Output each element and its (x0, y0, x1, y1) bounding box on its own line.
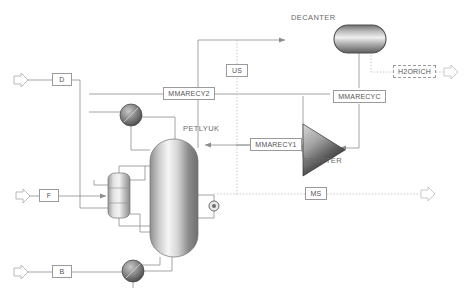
outlet-arrow-h2orich (444, 65, 458, 79)
block-label-splitter: SPLITTER (303, 156, 342, 165)
block-label-decanter: DECANTER (291, 13, 335, 22)
block-label-petlyuk: PETLYUK (183, 124, 219, 133)
stream-label-mmarecy1[interactable]: MMARECY1 (250, 138, 302, 151)
stream-label-h2orich[interactable]: H2ORICH (393, 65, 436, 78)
inlet-arrow-D (14, 73, 28, 87)
inlet-arrow-F (16, 189, 30, 203)
splitter-triangle (303, 124, 345, 176)
stream-label-mmarecyc[interactable]: MMARECYC (333, 90, 386, 103)
petlyuk-main-column (150, 139, 198, 257)
reboiler-sphere (122, 260, 144, 282)
valve-circle (209, 201, 219, 211)
stream-label-F[interactable]: F (39, 189, 59, 202)
flowsheet-graphics (0, 0, 472, 302)
stream-label-D[interactable]: D (52, 73, 72, 86)
stream-label-MS[interactable]: MS (305, 187, 327, 200)
inlet-arrow-B (14, 265, 28, 279)
stream-label-mmarecy2[interactable]: MMARECY2 (163, 87, 215, 100)
prefractionator-column (108, 173, 130, 218)
decanter-drum (334, 25, 386, 53)
stream-label-US[interactable]: US (226, 64, 248, 77)
stream-label-B[interactable]: B (52, 265, 72, 278)
port-arrows (14, 65, 458, 279)
process-flow-diagram: D F B US MMARECY2 MMARECY1 MMARECYC H2OR… (0, 0, 472, 302)
outlet-arrow-ms (421, 187, 435, 201)
condenser-sphere (120, 104, 142, 126)
